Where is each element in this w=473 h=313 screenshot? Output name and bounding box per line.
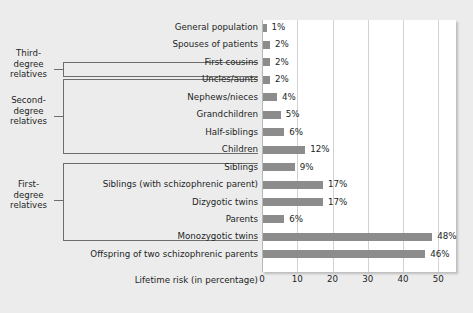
bar-value-label: 6%: [289, 215, 303, 224]
bar: [263, 233, 432, 241]
bar-value-label: 2%: [275, 75, 289, 84]
bar: [263, 163, 295, 171]
group-connector-second-degree: [54, 116, 63, 117]
category-label: Parents: [64, 214, 258, 225]
bar-value-label: 5%: [286, 110, 300, 119]
category-label: General population: [64, 22, 258, 33]
group-label-first-degree: First- degree relatives: [0, 179, 57, 211]
x-axis-title: Lifetime risk (in percentage): [64, 275, 258, 286]
bar-value-label: 46%: [430, 250, 449, 259]
bar: [263, 93, 277, 101]
group-label-third-degree: Third- degree relatives: [0, 48, 57, 80]
chart-figure: Third- degree relatives Second- degree r…: [0, 0, 473, 313]
category-label: Siblings: [64, 162, 258, 173]
group-bracket-column: Third- degree relatives Second- degree r…: [0, 0, 63, 313]
bar: [263, 146, 305, 154]
bar: [263, 58, 270, 66]
group-connector-third-degree: [54, 69, 63, 70]
bar-value-label: 2%: [275, 58, 289, 67]
group-label-line: Third-: [0, 48, 57, 59]
bar: [263, 24, 267, 32]
x-tick-label-40: 40: [393, 274, 413, 285]
group-label-line: Second-: [0, 95, 57, 106]
category-label: Half-siblings: [64, 127, 258, 138]
category-label-column: General populationSpouses of patientsFir…: [64, 0, 258, 313]
category-label: Dizygotic twins: [64, 197, 258, 208]
bar-value-label: 1%: [272, 23, 286, 32]
group-label-second-degree: Second- degree relatives: [0, 95, 57, 127]
category-label: Nephews/nieces: [64, 92, 258, 103]
plot-area: 1%2%2%2%4%5%6%12%9%17%17%6%48%46%: [262, 20, 456, 272]
group-connector-first-degree: [54, 200, 63, 201]
group-label-line: relatives: [0, 200, 57, 211]
bar: [263, 181, 323, 189]
category-label: Uncles/aunts: [64, 74, 258, 85]
bar: [263, 215, 284, 223]
group-label-line: relatives: [0, 69, 57, 80]
bar-value-label: 48%: [437, 232, 456, 241]
bar: [263, 128, 284, 136]
bar-value-label: 4%: [282, 93, 296, 102]
bar-value-label: 2%: [275, 40, 289, 49]
x-tick-label-30: 30: [358, 274, 378, 285]
x-tick-label-50: 50: [428, 274, 448, 285]
bar: [263, 198, 323, 206]
x-tick-label-10: 10: [287, 274, 307, 285]
group-label-line: First-: [0, 179, 57, 190]
bar-value-label: 9%: [300, 163, 314, 172]
category-label: Grandchildren: [64, 109, 258, 120]
category-label: Monozygotic twins: [64, 231, 258, 242]
bar: [263, 41, 270, 49]
bar-value-label: 12%: [310, 145, 329, 154]
x-axis: 01020304050: [262, 274, 462, 288]
category-label: Spouses of patients: [64, 39, 258, 50]
group-label-line: degree: [0, 190, 57, 201]
category-label: First cousins: [64, 57, 258, 68]
bar: [263, 76, 270, 84]
bar: [263, 250, 425, 258]
bar-value-label: 17%: [328, 180, 347, 189]
x-tick-label-20: 20: [323, 274, 343, 285]
bar-value-label: 17%: [328, 198, 347, 207]
group-label-line: degree: [0, 59, 57, 70]
category-label: Siblings (with schizophrenic parent): [64, 179, 258, 190]
bar: [263, 111, 281, 119]
group-label-line: relatives: [0, 116, 57, 127]
bar-value-label: 6%: [289, 128, 303, 137]
group-label-line: degree: [0, 106, 57, 117]
category-label: Offspring of two schizophrenic parents: [64, 249, 258, 260]
category-label: Children: [64, 144, 258, 155]
